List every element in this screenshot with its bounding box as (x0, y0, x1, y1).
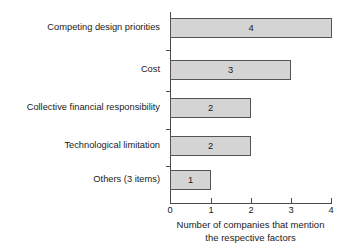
x-axis-tick-label-0: 0 (160, 205, 180, 215)
x-axis-tick-2 (251, 198, 252, 204)
y-axis-tick (166, 129, 171, 130)
x-axis-tick-1 (211, 198, 212, 204)
y-axis-tick (166, 50, 171, 51)
category-label-collective-financial-responsibility: Collective financial responsibility (27, 102, 160, 113)
x-axis-caption: Number of companies that mention the res… (160, 219, 341, 244)
bar-cost: 3 (170, 60, 291, 80)
bar-chart: Competing design priorities Cost Collect… (0, 0, 341, 252)
x-axis-tick-3 (291, 198, 292, 204)
category-label-technological-limitation: Technological limitation (64, 140, 160, 151)
x-axis-caption-line2: the respective factors (160, 232, 341, 245)
bar-competing-design-priorities: 4 (170, 18, 332, 38)
bar-others: 1 (170, 170, 211, 190)
plot-area: 4 3 2 2 1 (170, 12, 333, 203)
category-label-others: Others (3 items) (93, 174, 160, 185)
bar-value-label: 1 (171, 175, 210, 185)
x-axis-tick-4 (331, 198, 332, 204)
x-axis-tick-0 (170, 198, 171, 204)
bar-technological-limitation: 2 (170, 136, 251, 156)
category-label-competing-design-priorities: Competing design priorities (47, 22, 160, 33)
x-axis-tick-label-2: 2 (241, 205, 261, 215)
x-axis-tick-label-1: 1 (201, 205, 221, 215)
y-axis-tick (166, 166, 171, 167)
x-axis-tick-label-4: 4 (321, 205, 341, 215)
x-axis-tick-label-3: 3 (281, 205, 301, 215)
bar-value-label: 2 (171, 141, 250, 151)
bar-value-label: 3 (171, 65, 290, 75)
bar-collective-financial-responsibility: 2 (170, 98, 251, 118)
category-label-cost: Cost (141, 64, 160, 75)
bar-value-label: 2 (171, 103, 250, 113)
x-axis-caption-line1: Number of companies that mention (160, 219, 341, 232)
bar-value-label: 4 (171, 23, 331, 33)
y-axis-tick (166, 91, 171, 92)
